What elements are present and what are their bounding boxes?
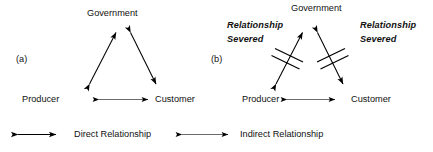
- legend-label-direct: Direct Relationship: [74, 129, 151, 140]
- panel-a-node-government: Government: [87, 8, 138, 19]
- edge-a-government-customer: [131, 33, 157, 85]
- panel-b-tag: (b): [211, 54, 222, 65]
- panel-b-annotation-right-line2: Severed: [360, 34, 396, 45]
- panel-b-annotation-right-line1: Relationship: [360, 20, 416, 31]
- panel-a-node-customer: Customer: [155, 94, 195, 105]
- panel-a-node-producer: Producer: [22, 94, 59, 105]
- edge-b-government-customer: [318, 33, 344, 85]
- figure-canvas: (a) Government Producer Customer (b) Gov…: [0, 0, 433, 152]
- sever-mark-left: [272, 49, 304, 70]
- panel-a-edges: [90, 33, 157, 100]
- panel-b-edges: [272, 33, 349, 100]
- panel-b-node-customer: Customer: [351, 94, 391, 105]
- panel-a-tag: (a): [16, 54, 27, 65]
- panel-b-annotation-left-line2: Severed: [227, 34, 263, 45]
- panel-b-node-producer: Producer: [242, 94, 279, 105]
- edge-b-producer-government: [276, 33, 303, 85]
- legend-label-indirect: Indirect Relationship: [240, 129, 323, 140]
- edge-a-producer-government: [90, 33, 117, 85]
- panel-b-annotation-left-line1: Relationship: [227, 20, 283, 31]
- panel-b-node-government: Government: [291, 3, 342, 14]
- sever-mark-right: [317, 49, 349, 70]
